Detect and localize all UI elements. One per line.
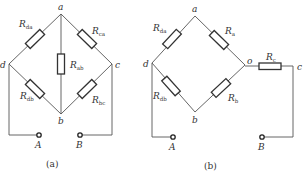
figure-a-delta-network: a d c b A B Rda Rca Rab Rdb Rbc (a)	[0, 2, 120, 169]
resistor-rdb	[162, 76, 181, 96]
node-label-d: d	[0, 60, 6, 70]
node-label-c: c	[297, 62, 302, 72]
label-rdb: Rdb	[152, 91, 167, 102]
terminal-label-b: B	[75, 140, 83, 150]
terminal-a	[37, 133, 41, 137]
label-rc: Rc	[265, 52, 276, 63]
node-label-a: a	[58, 2, 63, 12]
label-rab: Rab	[69, 60, 84, 71]
node-label-a: a	[192, 4, 197, 14]
resistor-rda	[25, 30, 44, 49]
wire-c-terminal-b	[264, 66, 293, 137]
node-label-b: b	[192, 115, 198, 125]
label-rdb: Rdb	[19, 91, 34, 102]
label-rb: Rb	[227, 93, 239, 104]
label-rda: Rda	[18, 19, 33, 30]
node-label-o: o	[247, 56, 253, 66]
node-label-d: d	[143, 59, 149, 69]
label-rbc: Rbc	[91, 95, 105, 106]
node-label-b: b	[58, 116, 64, 126]
terminal-b	[78, 133, 82, 137]
circuit-figure: a d c b A B Rda Rca Rab Rdb Rbc (a) a	[0, 0, 304, 179]
terminal-label-a: A	[168, 142, 176, 152]
resistor-rab	[58, 54, 65, 74]
terminal-label-a: A	[34, 140, 42, 150]
node-label-c: c	[115, 60, 120, 70]
terminal-label-b: B	[257, 142, 265, 152]
caption-b: (b)	[204, 161, 217, 171]
label-rca: Rca	[91, 26, 106, 37]
terminal-b	[260, 135, 264, 139]
figure-b-star-network: a d o c b A B Rda Ra Rdb Rb Rc (b)	[143, 4, 302, 171]
label-ra: Ra	[224, 26, 236, 37]
caption-a: (a)	[46, 159, 58, 169]
label-rda: Rda	[152, 23, 167, 34]
resistor-rc	[259, 63, 281, 70]
terminal-a	[171, 135, 175, 139]
